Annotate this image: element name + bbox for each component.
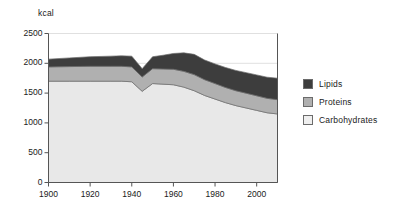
x-axis-tick-label: 1980 xyxy=(198,189,232,199)
x-axis-tick-label: 1940 xyxy=(115,189,149,199)
x-axis-tick-label: 2000 xyxy=(240,189,274,199)
y-axis-tick-label: 500 xyxy=(17,147,43,157)
y-axis-tick-label: 2000 xyxy=(17,57,43,67)
legend-swatch-icon xyxy=(303,79,313,89)
x-axis-tick-label: 1920 xyxy=(73,189,107,199)
legend-item-label: Proteins xyxy=(319,97,352,107)
y-axis-title: kcal xyxy=(38,8,54,18)
y-axis-tick-label: 0 xyxy=(17,177,43,187)
legend-swatch-icon xyxy=(303,115,313,125)
legend-item-label: Lipids xyxy=(319,79,342,89)
x-axis-tick-label: 1960 xyxy=(156,189,190,199)
legend-item[interactable]: Carbohydrates xyxy=(303,112,393,128)
x-axis-tick-label: 1900 xyxy=(32,189,66,199)
y-axis-tick-label: 2500 xyxy=(17,28,43,38)
legend-item-label: Carbohydrates xyxy=(319,115,377,125)
y-axis-tick-label: 1000 xyxy=(17,117,43,127)
legend-item[interactable]: Lipids xyxy=(303,76,393,92)
legend-swatch-icon xyxy=(303,97,313,107)
chart-container: kcal 05001000150020002500 19001920194019… xyxy=(0,0,396,216)
y-axis-tick-label: 1500 xyxy=(17,87,43,97)
chart-legend: LipidsProteinsCarbohydrates xyxy=(303,76,393,130)
legend-item[interactable]: Proteins xyxy=(303,94,393,110)
